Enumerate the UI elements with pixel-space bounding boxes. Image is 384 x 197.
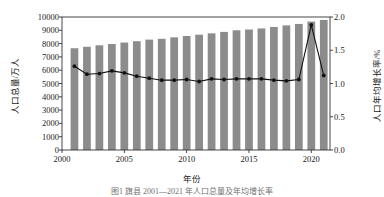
x-axis-title: 年份	[0, 172, 384, 184]
bar-2001	[71, 48, 79, 150]
bar-2013	[220, 32, 228, 150]
line-marker-2014	[235, 77, 239, 81]
ytick-label-left-9000: 9000	[25, 25, 59, 35]
line-marker-2017	[272, 78, 276, 82]
y-axis-left-title: 人口总量/万人	[8, 46, 20, 126]
xtick-label-2000: 2000	[42, 154, 82, 164]
bar-2008	[158, 39, 166, 150]
line-marker-2006	[135, 74, 139, 78]
bar-2006	[133, 41, 141, 150]
line-marker-2004	[110, 69, 114, 73]
line-marker-2018	[284, 79, 288, 83]
ytick-label-right-0.5: 0.5	[334, 112, 368, 122]
line-marker-2001	[73, 64, 77, 68]
line-marker-2008	[160, 78, 164, 82]
figure-caption: 图1 旗县 2001—2021 年人口总量及年均增长率	[0, 185, 384, 196]
bar-2019	[295, 24, 303, 150]
bar-2012	[208, 33, 216, 150]
line-marker-2010	[185, 78, 189, 82]
line-marker-2003	[98, 72, 102, 76]
bar-2004	[108, 44, 116, 150]
xtick-label-2020: 2020	[291, 154, 331, 164]
bar-2010	[183, 36, 191, 150]
bar-2015	[245, 30, 253, 151]
bar-2016	[258, 28, 266, 150]
bar-2005	[120, 43, 128, 150]
ytick-label-left-10000: 10000	[25, 12, 59, 22]
ytick-label-right-1: 1.0	[334, 79, 368, 89]
bar-series	[71, 20, 328, 150]
bar-2002	[83, 47, 91, 150]
line-marker-2002	[85, 72, 89, 76]
line-marker-2009	[172, 78, 176, 82]
bar-2017	[270, 27, 278, 150]
line-marker-2013	[222, 78, 226, 82]
xtick-label-2010: 2010	[167, 154, 207, 164]
ytick-label-left-2000: 2000	[25, 118, 59, 128]
line-marker-2005	[122, 71, 126, 75]
ytick-label-left-1000: 1000	[25, 132, 59, 142]
ytick-label-left-6000: 6000	[25, 65, 59, 75]
ytick-label-left-7000: 7000	[25, 52, 59, 62]
ytick-label-left-3000: 3000	[25, 105, 59, 115]
line-marker-2012	[210, 77, 214, 81]
bar-2014	[233, 30, 241, 150]
line-marker-2019	[297, 78, 301, 82]
line-marker-2011	[197, 80, 201, 84]
ytick-label-left-5000: 5000	[25, 79, 59, 89]
ytick-label-left-8000: 8000	[25, 39, 59, 49]
bar-2011	[195, 35, 203, 150]
ytick-label-left-4000: 4000	[25, 92, 59, 102]
ytick-label-right-2: 2.0	[334, 12, 368, 22]
xtick-label-2015: 2015	[229, 154, 269, 164]
line-marker-2016	[260, 77, 264, 81]
figure-container: 人口总量/万人 人口年均增长率/% 年份 0100020003000400050…	[0, 0, 384, 197]
bar-2003	[96, 45, 104, 150]
bar-2020	[307, 22, 315, 150]
bar-2007	[145, 40, 153, 150]
xtick-label-2005: 2005	[104, 154, 144, 164]
y-axis-right-title: 人口年均增长率/%	[370, 36, 382, 136]
line-marker-2007	[147, 76, 151, 80]
line-marker-2020	[309, 23, 313, 27]
ytick-label-right-0: 0.0	[334, 145, 368, 155]
bar-2009	[170, 37, 178, 150]
bar-2021	[320, 20, 328, 150]
ytick-label-right-1.5: 1.5	[334, 45, 368, 55]
bar-2018	[283, 25, 291, 150]
line-marker-2021	[322, 74, 326, 78]
line-marker-2015	[247, 77, 251, 81]
